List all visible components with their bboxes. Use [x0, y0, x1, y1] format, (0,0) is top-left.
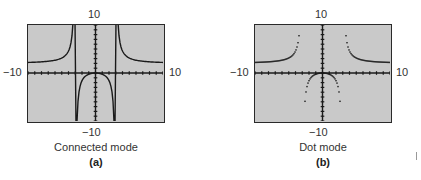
y-min-label: −10	[309, 126, 328, 138]
plot-dot	[295, 49, 296, 50]
plot-dot	[296, 46, 297, 47]
x-min-label: −10	[230, 66, 249, 78]
panel-dot-mode: 10 −10 10 −10 Dot mode (b)	[227, 0, 421, 180]
plot-dot	[293, 53, 294, 54]
plot-dot	[304, 101, 305, 102]
y-max-label: 10	[315, 8, 327, 20]
calculator-screen-connected	[27, 24, 165, 123]
stray-mark	[416, 152, 417, 160]
plot-dot	[350, 53, 351, 54]
graph-plot	[28, 25, 163, 121]
subfigure-label-b: (b)	[303, 156, 343, 168]
plot-dot	[306, 86, 307, 87]
x-min-label: −10	[3, 66, 22, 78]
plot-dot	[297, 42, 298, 43]
plot-dot	[336, 82, 337, 83]
plot-dot	[345, 35, 346, 36]
x-max-label: 10	[169, 66, 181, 78]
plot-dot	[308, 80, 309, 81]
plot-dot	[334, 78, 335, 79]
y-max-label: 10	[88, 8, 100, 20]
plot-dot	[346, 42, 347, 43]
panel-connected-mode: 10 −10 10 −10 Connected mode (a)	[0, 0, 210, 180]
plot-dot	[292, 54, 293, 55]
calculator-screen-dot	[254, 24, 392, 123]
plot-dot	[305, 91, 306, 92]
caption-dot-mode: Dot mode	[273, 141, 373, 153]
plot-dot	[307, 82, 308, 83]
plot-dot	[349, 51, 350, 52]
subfigure-label-a: (a)	[76, 156, 116, 168]
plot-dot	[309, 78, 310, 79]
y-min-label: −10	[82, 126, 101, 138]
plot-dot	[294, 51, 295, 52]
plot-dot	[339, 101, 340, 102]
plot-dot	[347, 46, 348, 47]
plot-dot	[348, 49, 349, 50]
plot-dot	[338, 91, 339, 92]
x-max-label: 10	[396, 66, 408, 78]
plot-dot	[337, 86, 338, 87]
plot-dot	[333, 77, 334, 78]
plot-dot	[389, 62, 390, 63]
graph-plot	[255, 25, 390, 121]
caption-connected-mode: Connected mode	[46, 141, 146, 153]
plot-dot	[298, 35, 299, 36]
plot-dot	[335, 80, 336, 81]
